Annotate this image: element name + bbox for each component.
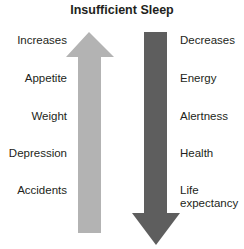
decreases-header: Decreases <box>180 34 235 47</box>
right-item-alertness: Alertness <box>180 110 228 123</box>
left-item-weight: Weight <box>31 110 67 123</box>
right-item-life-expectancy: Life expectancy <box>180 184 238 210</box>
left-item-depression: Depression <box>9 147 67 160</box>
increases-header: Increases <box>17 34 67 47</box>
down-arrow-icon <box>132 32 180 245</box>
right-item-energy: Energy <box>180 72 216 85</box>
life-line: Life <box>180 184 238 197</box>
right-item-health: Health <box>180 147 213 160</box>
up-arrow-icon <box>66 32 114 233</box>
left-item-appetite: Appetite <box>25 72 67 85</box>
left-item-accidents: Accidents <box>17 184 67 197</box>
expectancy-line: expectancy <box>180 197 238 210</box>
